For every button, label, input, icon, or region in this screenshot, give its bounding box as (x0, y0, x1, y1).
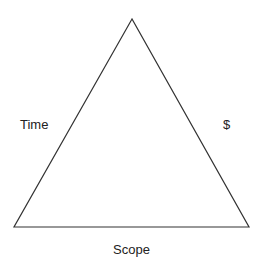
triangle-shape (0, 0, 262, 270)
triangle-diagram: Time $ Scope (0, 0, 262, 270)
cost-label: $ (223, 118, 230, 131)
scope-label: Scope (113, 243, 150, 256)
time-label: Time (20, 118, 48, 131)
